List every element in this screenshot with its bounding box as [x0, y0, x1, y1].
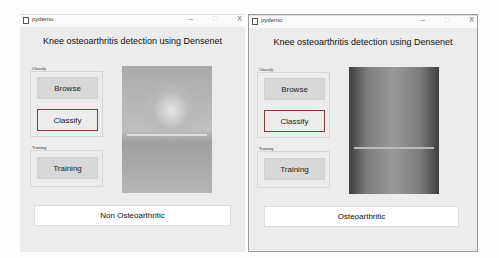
browse-button[interactable]: Browse	[37, 77, 98, 99]
maximize-button[interactable]: □	[213, 15, 217, 22]
browse-button[interactable]: Browse	[264, 78, 325, 100]
title-bar: pydemo – □ X	[249, 15, 477, 28]
classify-frame-label: Classify	[32, 66, 46, 71]
training-button[interactable]: Training	[37, 157, 98, 179]
app-title: Knee osteoarthritis detection using Dens…	[249, 37, 477, 47]
minimize-button[interactable]: –	[189, 15, 193, 22]
close-button[interactable]: X	[469, 16, 474, 23]
app-icon	[252, 18, 258, 25]
training-frame: Training Training	[30, 150, 103, 187]
result-label: Non Osteoarthritic	[34, 205, 231, 226]
app-title: Knee osteoarthritis detection using Dens…	[20, 36, 245, 46]
xray-image	[349, 67, 439, 194]
xray-image	[122, 66, 212, 193]
classify-button[interactable]: Classify	[37, 109, 98, 131]
app-window-right: pydemo – □ X Knee osteoarthritis detecti…	[248, 14, 478, 252]
title-bar: pydemo – □ X	[20, 14, 245, 27]
training-frame-label: Training	[259, 146, 273, 151]
window-title: pydemo	[32, 16, 53, 22]
minimize-button[interactable]: –	[421, 16, 425, 23]
classify-frame-label: Classify	[259, 67, 273, 72]
result-label: Osteoarthritic	[264, 206, 459, 227]
training-frame-label: Training	[32, 145, 46, 150]
app-icon	[23, 17, 29, 24]
classify-frame: Classify Browse Classify	[30, 71, 103, 137]
window-title: pydemo	[261, 17, 282, 23]
classify-button[interactable]: Classify	[264, 110, 325, 132]
classify-frame: Classify Browse Classify	[257, 72, 330, 138]
maximize-button[interactable]: □	[445, 16, 449, 23]
training-button[interactable]: Training	[264, 158, 325, 180]
app-window-left: pydemo – □ X Knee osteoarthritis detecti…	[20, 14, 245, 252]
close-button[interactable]: X	[237, 15, 242, 22]
training-frame: Training Training	[257, 151, 330, 188]
